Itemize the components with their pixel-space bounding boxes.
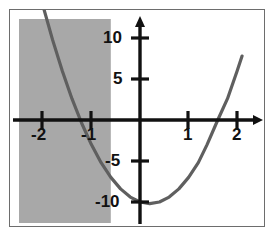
y-tick-label-neg10: -10 — [95, 193, 120, 210]
y-tick-label-pos5: 5 — [113, 70, 122, 87]
x-tick-label-neg1: -1 — [81, 126, 96, 143]
x-tick-label-neg2: -2 — [31, 126, 46, 143]
x-tick-label-pos2: 2 — [232, 126, 241, 143]
figure-root: -2 -1 1 2 10 5 -5 -10 — [0, 0, 276, 240]
y-tick-label-pos10: 10 — [103, 29, 122, 46]
y-tick-label-neg5: -5 — [105, 152, 120, 169]
plot-frame: -2 -1 1 2 10 5 -5 -10 — [9, 9, 265, 227]
plot-canvas — [10, 10, 265, 227]
x-tick-label-pos1: 1 — [183, 126, 192, 143]
